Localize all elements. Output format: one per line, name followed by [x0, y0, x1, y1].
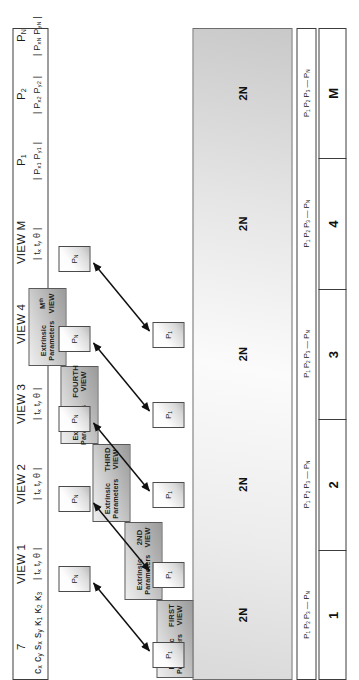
point-box-last-label-5: PN	[69, 255, 78, 264]
correspondence-arrow-3	[93, 423, 149, 491]
diagram-canvas: 7cx cy sx sy κ1 κ2 κ3VIEW 1| tx ty θ |VI…	[0, 0, 359, 680]
point-box-last-label-2: PN	[69, 495, 78, 504]
point-box-first-1: P1	[152, 642, 184, 668]
row-index-cell-5: M	[318, 28, 346, 158]
row-point-list-value-1: P1 P2 P3 — PN	[301, 591, 310, 639]
row-point-list-5: P1 P2 P3 — PN	[296, 28, 316, 158]
point-box-last-label-4: PN	[69, 335, 78, 344]
point-box-last-3: PN	[58, 406, 90, 432]
row-point-list-value-5: P1 P2 P3 — PN	[301, 69, 310, 117]
row-index-cell-4: 4	[318, 158, 346, 288]
point-box-last-2: PN	[58, 486, 90, 512]
point-box-first-2: P1	[152, 562, 184, 588]
point-box-first-label-3: P1	[163, 491, 172, 499]
row-point-list-4: P1 P2 P3 — PN	[296, 158, 316, 288]
point-box-first-label-2: P1	[163, 571, 172, 579]
row-index-value-2: 2	[325, 481, 340, 488]
point-box-last-1: PN	[58, 566, 90, 592]
row-index-value-1: 1	[325, 612, 340, 619]
point-box-first-label-1: P1	[163, 651, 172, 659]
row-index-value-4: 4	[325, 221, 340, 228]
row-index-cell-1: 1	[318, 550, 346, 680]
correspondence-arrow-2	[93, 503, 149, 571]
point-box-last-4: PN	[58, 326, 90, 352]
row-point-list-value-2: P1 P2 P3 — PN	[301, 461, 310, 509]
row-point-list-value-3: P1 P2 P3 — PN	[301, 330, 310, 378]
point-box-first-3: P1	[152, 482, 184, 508]
correspondence-arrow-5	[93, 263, 149, 331]
point-box-first-label-4: P1	[163, 411, 172, 419]
row-index-cell-2: 2	[318, 419, 346, 549]
point-box-first-label-5: P1	[163, 331, 172, 339]
point-box-last-label-3: PN	[69, 415, 78, 424]
row-index-value-5: M	[325, 88, 340, 99]
row-index-cell-3: 3	[318, 289, 346, 419]
point-box-first-4: P1	[152, 402, 184, 428]
correspondence-arrow-4	[93, 343, 149, 411]
point-box-last-5: PN	[58, 246, 90, 272]
row-index-value-3: 3	[325, 351, 340, 358]
row-point-list-value-4: P1 P2 P3 — PN	[301, 200, 310, 248]
correspondence-arrow-1	[93, 583, 149, 651]
point-box-first-5: P1	[152, 322, 184, 348]
row-point-list-2: P1 P2 P3 — PN	[296, 419, 316, 549]
row-point-list-1: P1 P2 P3 — PN	[296, 550, 316, 680]
row-point-list-3: P1 P2 P3 — PN	[296, 289, 316, 419]
point-box-last-label-1: PN	[69, 575, 78, 584]
